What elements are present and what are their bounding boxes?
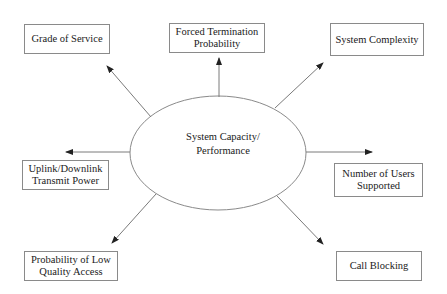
node-system-complexity: System Complexity: [330, 23, 424, 56]
node-label: Call Blocking: [350, 260, 409, 272]
node-label: System Complexity: [335, 34, 418, 46]
node-label: Grade of Service: [31, 33, 102, 45]
arrow-to-call-blocking: [277, 196, 323, 244]
node-call-blocking: Call Blocking: [336, 251, 422, 281]
arrow-to-system-complexity: [275, 63, 323, 108]
center-node-label: System Capacity/ Performance: [150, 130, 296, 158]
arrow-to-grade-of-service: [107, 66, 151, 117]
node-label: Number of Users Supported: [342, 168, 414, 192]
node-label: Uplink/Downlink Transmit Power: [28, 163, 102, 187]
node-grade-of-service: Grade of Service: [24, 24, 110, 54]
arrow-to-low-quality-access: [112, 194, 156, 243]
node-label: Forced Termination Probability: [176, 26, 259, 50]
node-low-quality-access: Probability of Low Quality Access: [24, 251, 118, 281]
node-uplink-downlink: Uplink/Downlink Transmit Power: [22, 160, 109, 190]
node-forced-termination: Forced Termination Probability: [169, 23, 265, 53]
node-number-of-users: Number of Users Supported: [334, 163, 423, 197]
node-label: Probability of Low Quality Access: [31, 254, 111, 278]
